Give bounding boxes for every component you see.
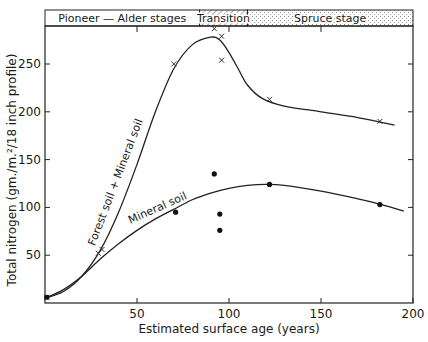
dot-marker — [173, 210, 178, 215]
dot-marker — [217, 228, 222, 233]
y-tick-label: 250 — [18, 57, 41, 71]
band-transition-label: Transition — [196, 12, 250, 25]
x-marker — [219, 58, 224, 63]
y-tick-label: 200 — [18, 105, 41, 119]
y-tick-label: 150 — [18, 153, 41, 167]
y-tick-label: 100 — [18, 200, 41, 214]
band-spruce-label: Spruce stage — [294, 12, 367, 25]
plot-frame — [45, 26, 413, 303]
x-axis: 50100150200 — [129, 298, 424, 321]
dot-marker — [377, 202, 382, 207]
curve-label-forest-mineral: Forest soil + Mineral soil — [85, 117, 145, 247]
x-tick-label: 100 — [218, 307, 241, 321]
x-tick-label: 200 — [402, 307, 425, 321]
x-tick-label: 50 — [129, 307, 144, 321]
band-pioneer-label: Pioneer — Alder stages — [58, 12, 186, 25]
y-tick-label: 50 — [26, 248, 41, 262]
dot-marker — [267, 182, 272, 187]
y-axis: 50100150200250 — [18, 57, 413, 262]
x-marker — [171, 62, 176, 67]
dot-marker — [217, 211, 222, 216]
x-axis-label: Estimated surface age (years) — [138, 322, 319, 336]
dot-marker — [44, 295, 49, 300]
x-marker — [219, 34, 224, 39]
fitted-curves — [45, 37, 404, 298]
nitrogen-chart: Pioneer — Alder stages Transition Spruce… — [0, 0, 428, 342]
chart-svg: Pioneer — Alder stages Transition Spruce… — [0, 0, 428, 342]
curve-forest-mineral — [45, 37, 395, 298]
y-axis-label: Total nitrogen (gm./m.²/18 inch profile) — [5, 54, 19, 288]
curve-label-mineral: Mineral soil — [126, 189, 189, 226]
dot-marker — [212, 171, 217, 176]
x-marker — [212, 26, 217, 31]
x-tick-label: 150 — [310, 307, 333, 321]
stage-band: Pioneer — Alder stages Transition Spruce… — [45, 10, 413, 26]
band-ticks — [137, 26, 321, 32]
